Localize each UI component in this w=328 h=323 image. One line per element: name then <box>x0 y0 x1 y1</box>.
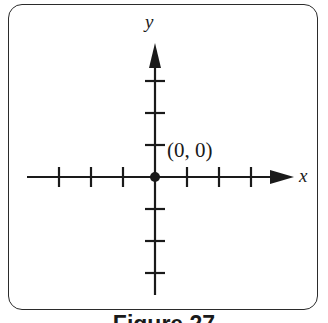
x-axis-arrowhead <box>270 170 294 184</box>
y-axis-arrowhead <box>149 43 161 68</box>
figure-caption: Figure 27 <box>0 311 328 323</box>
figure-container: y x (0, 0) Figure 27 <box>0 0 328 323</box>
x-axis-label: x <box>299 166 307 185</box>
origin-coordinate-label: (0, 0) <box>167 140 213 161</box>
origin-point-marker <box>150 172 160 182</box>
y-axis-label: y <box>145 12 153 31</box>
coordinate-plane-plot <box>0 0 328 323</box>
